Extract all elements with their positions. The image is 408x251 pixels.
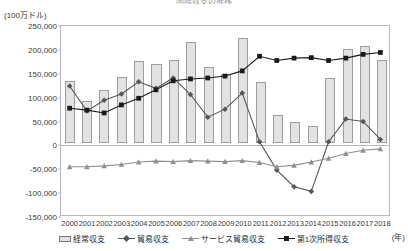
data-point-marker	[292, 56, 297, 61]
x-axis-tick-label: 2002	[96, 219, 113, 228]
legend-diamond-line-swatch-icon	[118, 235, 135, 242]
x-axis-tick-label: 2013	[287, 219, 304, 228]
balance-of-payments-chart: 国際収支の推移 (100万ドル) 250,000200,000150,00010…	[0, 0, 408, 251]
data-point-marker	[361, 52, 366, 57]
data-point-marker	[274, 58, 279, 63]
data-point-marker	[257, 54, 262, 59]
legend-triangle-line-swatch-icon	[182, 235, 199, 242]
line-diamond	[70, 78, 381, 191]
x-axis-tick-label: 2001	[79, 219, 96, 228]
data-point-marker	[309, 189, 315, 195]
data-point-marker	[101, 97, 107, 103]
x-axis-tick-label: 2011	[253, 219, 269, 228]
legend-square-line-swatch-icon	[278, 235, 295, 242]
x-axis-tick-label: 2005	[148, 219, 165, 228]
data-point-marker	[205, 76, 210, 81]
x-axis-tick-label: 2009	[218, 219, 235, 228]
data-point-marker	[119, 103, 124, 108]
legend-bar-swatch-icon	[59, 236, 71, 242]
data-point-marker	[223, 74, 228, 79]
x-axis-tick-label: 2010	[235, 219, 252, 228]
legend-item-label: 貿易収支	[137, 233, 169, 244]
legend-item[interactable]: 経常収支	[59, 233, 105, 244]
y-axis-tick-label: 0	[53, 141, 57, 150]
x-axis-tick-label: 2006	[166, 219, 183, 228]
x-axis-tick-label: 2000	[61, 219, 78, 228]
y-axis-unit-label: (100万ドル)	[4, 9, 47, 20]
data-point-marker	[67, 106, 72, 111]
x-axis-tick-label: 2008	[200, 219, 217, 228]
data-point-marker	[85, 108, 90, 113]
y-axis-tick-label: 50,000	[33, 117, 57, 126]
data-point-marker	[326, 58, 331, 63]
y-axis-tick-label: 200,000	[28, 45, 57, 54]
x-axis-tick-label: 2018	[374, 219, 391, 228]
legend-item-label: サービス貿易収支	[201, 233, 265, 244]
legend-item[interactable]: 貿易収支	[118, 233, 169, 244]
x-axis-tick-label: 2017	[357, 219, 374, 228]
y-axis-tick-label: -100,000	[25, 189, 57, 198]
y-axis-tick-label: 100,000	[28, 93, 57, 102]
x-axis-tick-label: 2014	[304, 219, 321, 228]
data-point-marker	[154, 87, 159, 92]
chart-legend: 経常収支貿易収支サービス貿易収支第1次所得収支	[0, 233, 408, 244]
x-axis-tick-label: 2004	[131, 219, 148, 228]
line-square	[70, 52, 381, 112]
data-point-marker	[136, 96, 141, 101]
line-series-layer	[61, 26, 389, 215]
y-axis-tick-label: -50,000	[30, 165, 57, 174]
x-axis-tick-label: 2003	[113, 219, 130, 228]
y-axis-tick-label: -150,000	[25, 213, 57, 222]
data-point-marker	[240, 69, 245, 74]
x-axis-tick-label: 2016	[339, 219, 356, 228]
y-axis-tick-mark	[58, 217, 61, 218]
chart-title: 国際収支の推移	[0, 0, 408, 4]
legend-item-label: 第1次所得収支	[297, 233, 349, 244]
plot-area: 250,000200,000150,000100,00050,0000-50,0…	[60, 25, 390, 216]
data-point-marker	[343, 56, 348, 61]
data-point-marker	[309, 55, 314, 60]
y-axis-tick-label: 150,000	[28, 69, 57, 78]
x-axis-tick-label: 2012	[270, 219, 287, 228]
x-axis-tick-label: 2015	[322, 219, 339, 228]
y-axis-tick-label: 250,000	[28, 22, 57, 31]
legend-item-label: 経常収支	[73, 233, 105, 244]
legend-item[interactable]: サービス貿易収支	[182, 233, 265, 244]
data-point-marker	[171, 78, 176, 83]
data-point-marker	[188, 77, 193, 82]
data-point-marker	[257, 139, 263, 145]
data-point-marker	[102, 111, 107, 116]
x-axis-tick-label: 2007	[183, 219, 200, 228]
data-point-marker	[378, 50, 383, 55]
legend-item[interactable]: 第1次所得収支	[278, 233, 349, 244]
line-triangle	[70, 149, 381, 167]
